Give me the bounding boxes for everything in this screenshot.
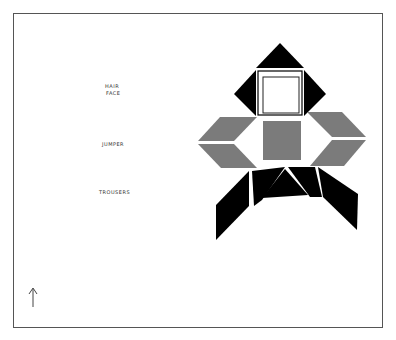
hair-left-triangle[interactable] (234, 70, 256, 116)
hair-right-triangle[interactable] (304, 70, 326, 116)
jumper-left-upper[interactable] (198, 117, 257, 141)
hair-top-triangle[interactable] (256, 43, 304, 68)
trousers-right-leg[interactable] (318, 167, 358, 230)
jumper-left-lower[interactable] (198, 144, 257, 168)
jumper-right-upper[interactable] (307, 112, 366, 137)
tangram-figure (0, 0, 396, 340)
trousers-left-leg-upper[interactable] (216, 171, 249, 240)
jumper-body-square[interactable] (263, 121, 301, 160)
up-arrow-icon (25, 285, 45, 309)
jumper-right-lower[interactable] (310, 140, 366, 166)
face-square[interactable] (258, 71, 302, 115)
